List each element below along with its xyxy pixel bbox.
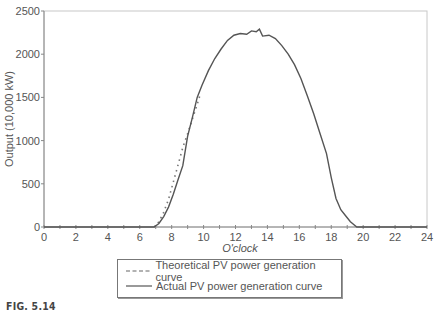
x-tick-label: 14: [261, 231, 273, 243]
x-tick-label: 24: [421, 231, 433, 243]
y-axis-ticks: 05001000150020002500: [16, 5, 44, 233]
x-tick-label: 10: [197, 231, 209, 243]
x-axis-title: O'clock: [222, 242, 258, 254]
figure-caption: FIG. 5.14: [6, 300, 56, 313]
x-tick-label: 2: [73, 231, 79, 243]
x-tick-label: 0: [41, 231, 47, 243]
y-tick-label: 500: [22, 178, 40, 190]
x-tick-label: 18: [325, 231, 337, 243]
legend-item-actual: Actual PV power generation curve: [126, 279, 322, 293]
dashed-line-icon: [126, 269, 151, 273]
y-tick-label: 1000: [16, 135, 40, 147]
line-chart: 05001000150020002500 0246810121416182022…: [0, 0, 440, 258]
legend-label: Actual PV power generation curve: [156, 280, 322, 292]
y-axis-title: Output (10,000 kW): [3, 71, 15, 167]
x-tick-label: 4: [105, 231, 111, 243]
y-tick-label: 1500: [16, 91, 40, 103]
x-tick-label: 22: [389, 231, 401, 243]
actual-curve: [44, 29, 427, 227]
x-tick-label: 8: [169, 231, 175, 243]
y-tick-label: 0: [34, 221, 40, 233]
x-tick-label: 20: [357, 231, 369, 243]
plot-frame: [44, 11, 427, 227]
chart-legend: Theoretical PV power generation curve Ac…: [117, 259, 342, 298]
y-tick-label: 2000: [16, 48, 40, 60]
legend-item-theoretical: Theoretical PV power generation curve: [126, 264, 341, 278]
x-tick-label: 6: [137, 231, 143, 243]
x-tick-label: 16: [293, 231, 305, 243]
y-tick-label: 2500: [16, 5, 40, 17]
solid-line-icon: [126, 284, 152, 288]
